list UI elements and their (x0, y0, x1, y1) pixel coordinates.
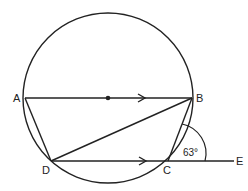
label-e: E (236, 155, 243, 167)
label-c: C (163, 164, 171, 176)
center-dot (106, 96, 111, 101)
angle-label: 63° (183, 147, 198, 158)
label-a: A (13, 92, 21, 104)
label-d: D (42, 164, 50, 176)
segment-db (51, 98, 192, 161)
label-b: B (196, 92, 203, 104)
geometry-diagram: A B D C E 63° (0, 0, 248, 191)
